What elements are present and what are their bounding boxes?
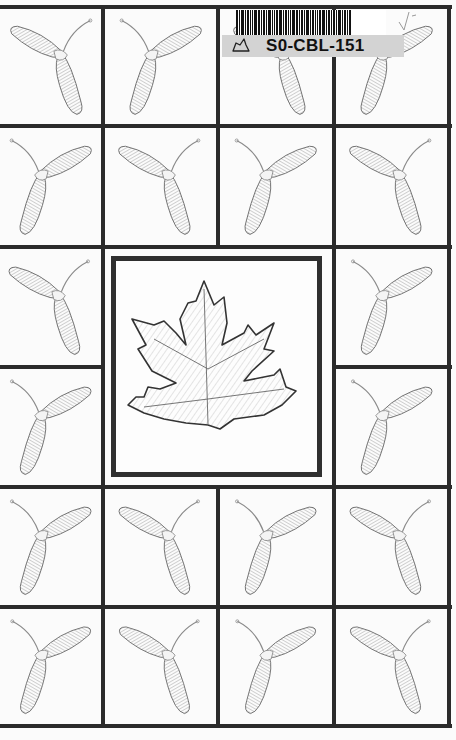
maple-seed-cell <box>105 490 215 604</box>
maple-seed-icon <box>336 490 446 604</box>
maple-seed-cell <box>0 370 100 484</box>
maple-seed-icon <box>336 370 446 484</box>
maple-seed-icon <box>0 370 100 484</box>
grid-line-h1 <box>0 124 452 128</box>
maple-seed-cell <box>105 610 215 723</box>
maple-seed-icon <box>336 610 446 723</box>
maple-seed-cell <box>220 490 330 604</box>
barcode-icon <box>236 10 386 35</box>
maple-leaf-frame <box>111 256 322 477</box>
grid-line-bottom <box>0 724 452 728</box>
sticker-label-strip: S0-CBL-151 <box>222 35 404 57</box>
maple-seed-cell <box>0 610 100 723</box>
maple-seed-cell <box>336 129 446 244</box>
leaf-outline-icon <box>230 37 252 55</box>
maple-seed-icon <box>0 129 100 244</box>
maple-seed-cell <box>220 610 330 723</box>
maple-seed-cell <box>0 490 100 604</box>
checkmark-icon <box>397 10 419 32</box>
maple-seed-cell <box>105 129 215 244</box>
maple-seed-cell <box>0 250 100 364</box>
maple-seed-icon <box>0 490 100 604</box>
grid-line-h5 <box>0 605 452 609</box>
maple-seed-cell <box>220 129 330 244</box>
maple-seed-cell <box>0 129 100 244</box>
maple-seed-cell <box>4 9 100 124</box>
grid-line-h3-right <box>332 365 452 369</box>
maple-seed-icon <box>105 129 215 244</box>
maple-seed-cell <box>336 490 446 604</box>
maple-seed-icon <box>220 610 330 723</box>
grid-line-h3-left <box>0 365 103 369</box>
maple-seed-cell <box>336 610 446 723</box>
maple-seed-icon <box>0 610 100 723</box>
maple-seed-icon <box>105 9 215 124</box>
maple-seed-icon <box>105 490 215 604</box>
grid-line-h2 <box>0 245 452 249</box>
sticker-code: S0-CBL-151 <box>266 36 364 56</box>
maple-seed-cell <box>336 370 446 484</box>
maple-seed-icon <box>4 9 100 124</box>
grid-line-h4 <box>0 485 452 489</box>
maple-seed-icon <box>105 610 215 723</box>
maple-seed-icon <box>0 250 100 364</box>
maple-seed-icon <box>220 129 330 244</box>
barcode-sticker: S0-CBL-151 <box>222 10 404 60</box>
grid-line-right <box>447 5 451 728</box>
maple-seed-icon <box>336 129 446 244</box>
maple-seed-cell <box>105 9 215 124</box>
maple-seed-cell <box>336 250 446 364</box>
maple-leaf-icon <box>124 279 309 449</box>
maple-seed-icon <box>220 490 330 604</box>
maple-seed-icon <box>336 250 446 364</box>
